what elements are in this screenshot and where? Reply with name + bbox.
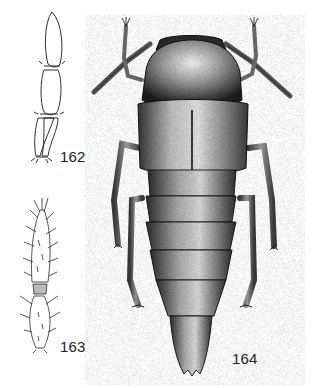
figure-164-beetle [85, 15, 305, 385]
figure-label-164: 164 [232, 350, 258, 367]
illustration-plate: 162 163 164 [0, 0, 313, 388]
figure-label-162: 162 [60, 148, 86, 165]
figure-label-163: 163 [60, 338, 86, 355]
plate-drawing [0, 0, 313, 388]
figure-163-antenna [20, 198, 60, 353]
figure-162-antenna [31, 12, 65, 163]
